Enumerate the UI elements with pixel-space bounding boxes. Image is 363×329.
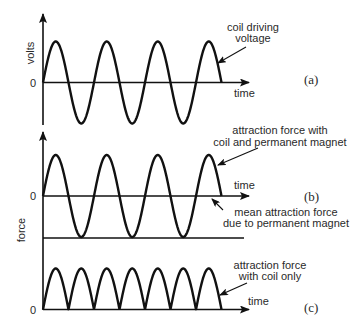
time-label: time: [248, 295, 269, 307]
annotation-line-1: attraction force with: [232, 124, 327, 136]
panel-b: 0 time attraction force with coil and pe…: [30, 124, 349, 238]
volts-axis-label: volts: [24, 41, 36, 64]
zero-label: 0: [30, 77, 36, 89]
electromagnet-force-diagram: volts 0 time coil driving voltage (a) fo…: [0, 0, 363, 329]
panel-tag-c: (c): [304, 300, 318, 315]
panel-tag-a: (a): [304, 72, 318, 87]
panel-a: volts 0 time coil driving voltage (a): [24, 14, 318, 125]
time-label: time: [234, 87, 255, 99]
mean-annotation-line-2: due to permanent magnet: [223, 217, 349, 229]
panel-c: 0 time attraction force with coil only (…: [30, 259, 319, 316]
annotation-pointer-arrow-icon: [220, 283, 247, 295]
annotation-line-2: voltage: [235, 32, 270, 44]
annotation-pointer-arrow-icon: [218, 148, 258, 165]
force-axis-label: force: [15, 218, 27, 242]
annotation-line-2: coil and permanent magnet: [213, 136, 346, 148]
time-label: time: [234, 179, 255, 191]
mean-pointer-arrow-icon: [212, 199, 223, 210]
zero-label: 0: [30, 304, 36, 316]
annotation-line-2: with coil only: [238, 270, 302, 282]
zero-label: 0: [30, 190, 36, 202]
panel-tag-b: (b): [304, 189, 319, 204]
coil-only-force-waveform: [43, 269, 222, 310]
annotation-pointer-arrow-icon: [218, 47, 246, 63]
